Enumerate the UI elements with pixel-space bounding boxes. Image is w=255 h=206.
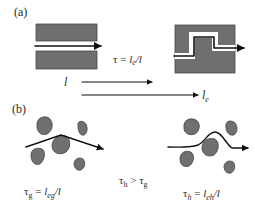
panel-b-label: (b) bbox=[12, 102, 26, 116]
grain bbox=[184, 119, 199, 135]
grain bbox=[74, 158, 85, 170]
grain-packing-right bbox=[180, 119, 237, 173]
grain bbox=[78, 121, 87, 135]
tortuous-pore-diagram bbox=[174, 25, 244, 73]
grain bbox=[31, 148, 44, 164]
hydraulic-tortuosity-equation: τh = leh/l bbox=[183, 187, 220, 202]
tortuosity-equation: τ = le/l bbox=[113, 53, 142, 67]
grain bbox=[224, 161, 235, 173]
grain-packing-left bbox=[31, 117, 87, 170]
upper-solid-block bbox=[36, 24, 97, 41]
lower-solid-block bbox=[36, 51, 97, 69]
grain bbox=[180, 151, 193, 166]
effective-length-label: le bbox=[202, 88, 209, 104]
geometric-tortuosity-equation: τg = leg/l bbox=[24, 185, 61, 200]
straight-length-label: l bbox=[64, 75, 68, 89]
grain bbox=[226, 121, 237, 135]
grain bbox=[37, 117, 52, 135]
grain bbox=[52, 135, 70, 153]
tortuosity-diagram: (a) τ = le/l l le (b) τg = le bbox=[0, 0, 255, 206]
grain bbox=[202, 138, 218, 156]
straight-pore-diagram bbox=[35, 24, 101, 69]
tortuosity-comparison: τh > τg bbox=[119, 174, 148, 189]
panel-a-label: (a) bbox=[14, 5, 27, 19]
